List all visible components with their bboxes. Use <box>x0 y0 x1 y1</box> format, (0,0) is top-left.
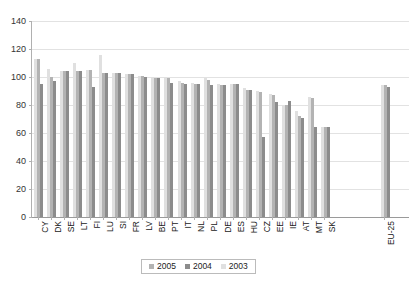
x-tick-mark <box>272 217 273 220</box>
bar-2004 <box>197 84 200 217</box>
y-tick-label: 80 <box>16 101 26 110</box>
x-axis-label: DK <box>54 221 63 233</box>
bar-2004 <box>184 84 187 217</box>
legend-label: 2004 <box>193 262 212 271</box>
x-tick-mark <box>181 217 182 220</box>
bar-group <box>34 21 43 217</box>
x-axis-label: LU <box>106 221 115 232</box>
legend-swatch-icon <box>149 264 154 269</box>
x-axis-label: CY <box>41 221 50 233</box>
legend-item: 2004 <box>185 262 212 271</box>
x-axis-label: MT <box>315 221 324 233</box>
x-tick-mark <box>246 217 247 220</box>
x-axis-label: PL <box>210 221 219 231</box>
bar-2004 <box>53 81 56 217</box>
x-tick-mark <box>129 217 130 220</box>
bar-2004 <box>387 87 390 217</box>
bar-2004 <box>144 77 147 217</box>
bar-2004 <box>275 102 278 217</box>
x-tick-mark <box>142 217 143 220</box>
plot-area <box>31 21 409 218</box>
x-axis-label: EU-25 <box>387 221 396 245</box>
x-tick-mark <box>168 217 169 220</box>
y-tick-label: 60 <box>16 129 26 138</box>
bar-group <box>191 21 200 217</box>
x-axis-label: NL <box>197 221 206 232</box>
x-tick-mark <box>220 217 221 220</box>
bar-2004 <box>157 78 160 217</box>
bar-group <box>381 21 390 217</box>
legend-swatch-icon <box>221 264 226 269</box>
x-axis-label: SK <box>328 221 337 232</box>
bar-2004 <box>79 71 82 217</box>
bar-group <box>204 21 213 217</box>
x-axis-label: IT <box>184 221 193 229</box>
bar-group <box>47 21 56 217</box>
bar-2004 <box>236 84 239 217</box>
bar-2004 <box>66 71 69 217</box>
x-axis-label: LT <box>80 221 89 230</box>
bar-2004 <box>249 90 252 217</box>
x-axis-label: IE <box>289 221 298 229</box>
bar-group <box>73 21 82 217</box>
bar-2004 <box>131 74 134 217</box>
bar-group <box>308 21 317 217</box>
x-tick-mark <box>103 217 104 220</box>
x-axis-label: FR <box>132 221 141 232</box>
y-tick-label: 0 <box>21 213 26 222</box>
plot-wrapper: 020406080100120140 CYDKSELTFILUSIFRLVBEP… <box>0 0 412 291</box>
bar-group <box>138 21 147 217</box>
x-axis-label: CZ <box>263 221 272 232</box>
bar-group <box>217 21 226 217</box>
x-axis-label: SI <box>119 221 128 229</box>
x-tick-mark <box>259 217 260 220</box>
x-tick-mark <box>90 217 91 220</box>
bars-layer <box>32 21 409 217</box>
x-tick-mark <box>51 217 52 220</box>
x-tick-mark <box>311 217 312 220</box>
x-axis-labels: CYDKSELTFILUSIFRLVBEPTITNLPLDEESHUCZEEIE… <box>31 221 408 261</box>
bar-group <box>60 21 69 217</box>
x-axis-label: SE <box>67 221 76 232</box>
y-tick-label: 120 <box>11 45 26 54</box>
x-tick-mark <box>207 217 208 220</box>
bar-2004 <box>301 118 304 217</box>
y-tick-label: 140 <box>11 17 26 26</box>
bar-2004 <box>40 84 43 217</box>
chart-legend: 200520042003 <box>141 259 256 274</box>
legend-swatch-icon <box>185 264 190 269</box>
bar-chart: 020406080100120140 CYDKSELTFILUSIFRLVBEP… <box>0 0 412 291</box>
bar-group <box>269 21 278 217</box>
x-tick-mark <box>64 217 65 220</box>
bar-2004 <box>288 101 291 217</box>
x-tick-mark <box>384 217 385 220</box>
bar-2004 <box>223 85 226 217</box>
bar-group <box>295 21 304 217</box>
x-axis-label: DE <box>224 221 233 233</box>
bar-group <box>256 21 265 217</box>
x-tick-mark <box>233 217 234 220</box>
x-axis-label: HU <box>250 221 259 233</box>
x-axis-label: AT <box>302 221 311 231</box>
x-tick-mark <box>77 217 78 220</box>
y-tick-label: 100 <box>11 73 26 82</box>
bar-group <box>178 21 187 217</box>
bar-group <box>112 21 121 217</box>
x-axis-label: EE <box>276 221 285 232</box>
x-tick-mark <box>194 217 195 220</box>
bar-group <box>164 21 173 217</box>
bar-2004 <box>92 87 95 217</box>
x-tick-mark <box>38 217 39 220</box>
bar-2004 <box>314 127 317 217</box>
bar-group <box>282 21 291 217</box>
y-axis: 020406080100120140 <box>0 0 30 220</box>
bar-2004 <box>210 85 213 217</box>
x-axis-label: LV <box>145 221 154 231</box>
bar-2004 <box>105 73 108 217</box>
bar-2004 <box>262 137 265 217</box>
bar-2004 <box>327 127 330 217</box>
x-tick-mark <box>116 217 117 220</box>
y-tick-label: 20 <box>16 185 26 194</box>
x-tick-mark <box>298 217 299 220</box>
legend-label: 2003 <box>229 262 248 271</box>
